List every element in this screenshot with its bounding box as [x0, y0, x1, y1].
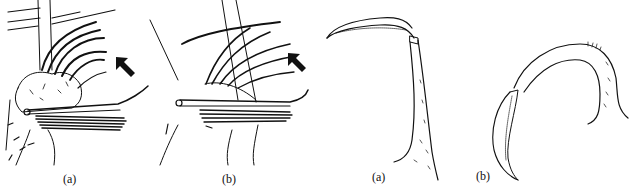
panel-label-left-b: (b) [222, 173, 236, 185]
panel-left-a-drawing [6, 0, 148, 165]
panel-label-left-a: (a) [63, 173, 76, 185]
illustration-canvas [0, 0, 629, 188]
panel-right-b-drawing [493, 42, 628, 180]
panel-left-b-drawing [150, 0, 308, 165]
arrow-icon-left-b [288, 53, 306, 72]
scientific-figure: (a) (b) (a) (b) [0, 0, 629, 188]
panel-label-right-b: (b) [476, 170, 490, 182]
arrow-icon-left-a [116, 57, 135, 77]
panel-label-right-a: (a) [372, 171, 385, 183]
panel-right-a-drawing [327, 18, 438, 180]
